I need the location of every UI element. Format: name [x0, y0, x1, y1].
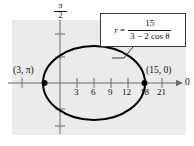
equation-lhs: r [115, 25, 119, 35]
x-tick-label-6: 6 [91, 88, 96, 97]
equation-equals-sign: = [120, 25, 125, 35]
x-tick-label-12: 12 [122, 88, 131, 97]
x-tick-label-18: 18 [140, 88, 149, 97]
equation-denominator: 3 − 2 cos θ [128, 32, 171, 41]
equation-fraction: 15 3 − 2 cos θ [128, 19, 171, 41]
equation-numerator: 15 [128, 19, 171, 28]
point-label-3-pi: (3, π) [13, 66, 34, 76]
equation-callout: r = 15 3 − 2 cos θ [100, 13, 186, 47]
vertical-axis-label-numerator: π [54, 2, 67, 10]
polar-graph-figure: π 2 0 3 6 9 12 18 21 (3, π) (15, 0) r = … [0, 0, 194, 146]
x-tick-label-21: 21 [157, 88, 166, 97]
polar-axis-label: 0 [185, 78, 190, 88]
equation: r = 15 3 − 2 cos θ [115, 19, 172, 41]
vertical-axis-label-denominator: 2 [54, 12, 67, 20]
point-marker-15-0 [142, 80, 148, 86]
x-tick-label-3: 3 [74, 88, 79, 97]
x-tick-label-9: 9 [108, 88, 113, 97]
vertical-axis-label: π 2 [54, 2, 67, 20]
point-marker-3-pi [42, 80, 48, 86]
point-label-15-0: (15, 0) [146, 66, 171, 76]
